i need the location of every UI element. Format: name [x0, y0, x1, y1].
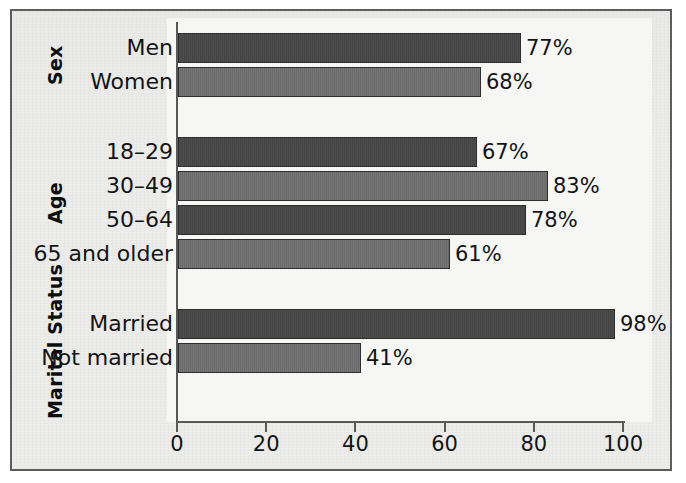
x-tick-100: [622, 423, 624, 432]
chart-screenshot: 020406080100 MenWomen18–2930–4950–6465 a…: [0, 0, 686, 483]
bar: [178, 171, 548, 201]
value-label: 98%: [620, 314, 667, 335]
x-tick-label-80: 80: [520, 432, 547, 456]
bar-texture: [179, 172, 547, 200]
x-tick-80: [533, 423, 535, 432]
category-label: Married: [89, 313, 177, 335]
category-label: 65 and older: [34, 243, 178, 265]
x-tick-label-0: 0: [170, 432, 183, 456]
value-label: 77%: [526, 38, 573, 59]
category-label: Women: [90, 71, 177, 93]
bar-texture: [179, 240, 449, 268]
value-label: 67%: [482, 142, 529, 163]
x-tick-label-100: 100: [603, 432, 643, 456]
value-label: 78%: [531, 210, 578, 231]
x-tick-20: [265, 423, 267, 432]
bar: [178, 309, 615, 339]
group-label-marital-status: Marital Status: [44, 264, 66, 419]
x-tick-label-60: 60: [431, 432, 458, 456]
bar-texture: [179, 34, 520, 62]
bar: [178, 67, 481, 97]
category-label: 18–29: [106, 141, 177, 163]
bar-texture: [179, 344, 360, 372]
value-label: 41%: [366, 348, 413, 369]
category-label: Men: [127, 37, 177, 59]
bar-texture: [179, 310, 614, 338]
x-tick-label-20: 20: [253, 432, 280, 456]
value-label: 83%: [553, 176, 600, 197]
value-label: 61%: [455, 244, 502, 265]
bar: [178, 137, 477, 167]
bar-texture: [179, 206, 525, 234]
bar: [178, 33, 521, 63]
bar: [178, 239, 450, 269]
x-axis-line: [176, 421, 625, 423]
category-label: 30–49: [106, 175, 177, 197]
x-tick-label-40: 40: [342, 432, 369, 456]
bar: [178, 343, 361, 373]
group-label-age: Age: [44, 182, 66, 224]
bar-texture: [179, 138, 476, 166]
group-label-sex: Sex: [44, 45, 66, 84]
x-tick-40: [354, 423, 356, 432]
bar: [178, 205, 526, 235]
x-tick-60: [444, 423, 446, 432]
x-tick-0: [176, 423, 178, 432]
category-label: 50–64: [106, 209, 177, 231]
bar-texture: [179, 68, 480, 96]
value-label: 68%: [486, 72, 533, 93]
